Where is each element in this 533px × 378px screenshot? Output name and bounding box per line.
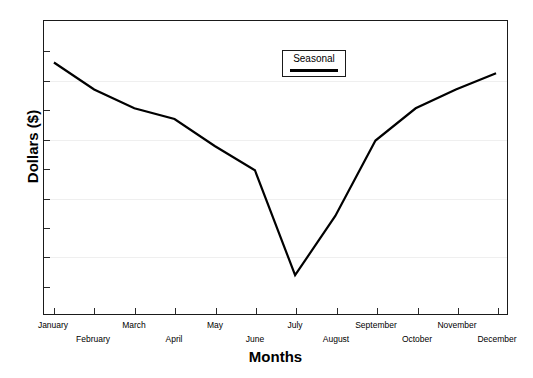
x-tick-label-december: December	[477, 334, 516, 344]
legend-label-seasonal: Seasonal	[283, 53, 345, 65]
series-line	[54, 63, 496, 276]
x-tick-label-january: January	[38, 320, 68, 330]
legend-line-sample	[290, 69, 338, 72]
x-tick-label-june: June	[246, 334, 264, 344]
x-tick-label-august: August	[323, 334, 349, 344]
series-seasonal	[44, 21, 507, 314]
x-tick-label-may: May	[207, 320, 223, 330]
x-axis-title: Months	[43, 348, 508, 365]
y-axis-title: Dollars ($)	[24, 77, 41, 217]
chart-figure: Dollars ($) S	[0, 0, 533, 378]
x-tick-label-april: April	[165, 334, 182, 344]
x-tick-label-february: February	[76, 334, 110, 344]
x-tick-label-july: July	[287, 320, 302, 330]
x-tick-label-september: September	[355, 320, 397, 330]
legend: Seasonal	[282, 50, 346, 77]
x-tick-label-november: November	[437, 320, 476, 330]
x-tick-label-october: October	[402, 334, 432, 344]
plot-area: Seasonal	[43, 20, 508, 315]
x-tick-label-march: March	[122, 320, 146, 330]
